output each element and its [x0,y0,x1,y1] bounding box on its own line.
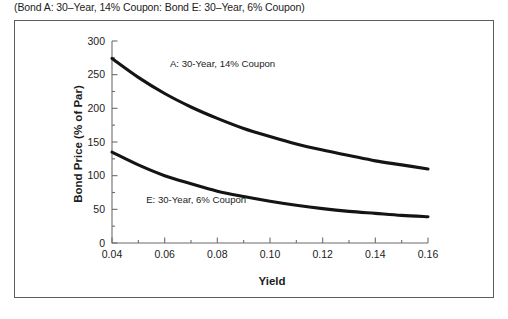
y-tick-label: 50 [93,203,105,215]
y-tick-label: 200 [87,102,105,114]
x-tick-label: 0.08 [207,248,228,260]
curve-a-annotation: A: 30-Year, 14% Coupon [170,58,275,69]
bond-price-yield-figure: (Bond A: 30–Year, 14% Coupon: Bond E: 30… [0,0,508,319]
x-tick-label: 0.10 [260,248,281,260]
chart-svg: 0501001502002503000.040.060.080.100.120.… [0,0,508,319]
y-axis-title: Bond Price (% of Par) [72,85,84,203]
x-tick-label: 0.14 [365,248,386,260]
y-tick-label: 150 [87,136,105,148]
series-curve-a [112,59,428,169]
x-tick-label: 0.12 [312,248,333,260]
curve-e-annotation: E: 30-Year, 6% Coupon [146,194,246,205]
y-tick-label: 300 [87,35,105,47]
x-tick-label: 0.16 [418,248,439,260]
y-tick-label: 100 [87,169,105,181]
x-tick-label: 0.04 [102,248,123,260]
x-tick-label: 0.06 [154,248,175,260]
y-tick-label: 250 [87,68,105,80]
x-axis-title: Yield [258,275,285,287]
y-tick-label: 0 [99,237,105,249]
